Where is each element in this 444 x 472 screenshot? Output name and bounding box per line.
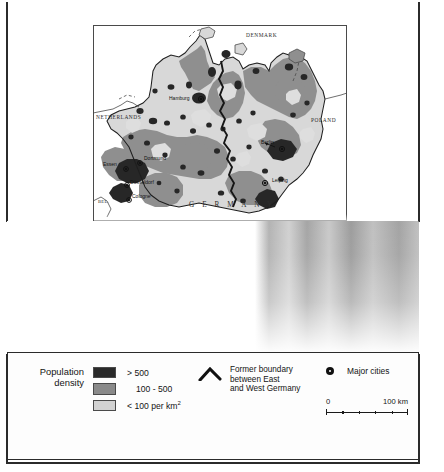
- legend-cities-label: Major cities: [347, 366, 389, 376]
- page-edge-bottom: [6, 462, 420, 464]
- scale-tick-20: [342, 411, 343, 414]
- scale-label-min: 0: [326, 397, 330, 406]
- scale-label-max: 100 km: [383, 397, 408, 406]
- scale-tick-80: [392, 411, 393, 414]
- density-class-list: > 500 100 - 500 < 100 per km2: [93, 365, 181, 415]
- scale-bar-line: [326, 412, 408, 413]
- boundary-text-line3: and West Germany: [230, 384, 300, 394]
- legend-item-major-cities: Major cities: [326, 366, 389, 376]
- swatch-low-density: [93, 400, 116, 412]
- density-label-low-text: < 100 per km: [127, 401, 177, 411]
- legend-title-line1: Population: [22, 366, 84, 377]
- scale-tick-60: [375, 411, 376, 414]
- density-class-low: < 100 per km2: [93, 398, 181, 413]
- density-label-medium: 100 - 500: [136, 384, 172, 394]
- boundary-text-line2: between East: [230, 375, 300, 385]
- density-label-high: > 500: [127, 368, 149, 378]
- city-markers: [93, 25, 347, 221]
- density-label-low-exponent: 2: [177, 400, 180, 406]
- scale-tick-40: [359, 411, 360, 414]
- swatch-medium-density: [93, 383, 116, 395]
- boundary-text-line1: Former boundary: [230, 365, 300, 375]
- density-label-low: < 100 per km2: [127, 400, 181, 411]
- legend-item-former-boundary: Former boundary between East and West Ge…: [198, 365, 300, 394]
- scan-smear-artifact: [7, 221, 419, 352]
- page-edge-right-upper: [418, 2, 420, 222]
- city-dot-icon: [326, 367, 334, 375]
- density-class-medium: 100 - 500: [93, 382, 181, 397]
- scale-bar-rule: [326, 408, 408, 415]
- swatch-high-density: [93, 367, 116, 379]
- population-density-map: DENMARK NETHERLANDS POLAND BEL. G E R M …: [93, 25, 347, 221]
- map-legend: Population density > 500 100 - 500 < 100…: [7, 352, 419, 460]
- page-edge-left-upper: [6, 2, 8, 222]
- legend-title-line2: density: [22, 377, 84, 388]
- density-class-high: > 500: [93, 365, 181, 380]
- legend-title: Population density: [22, 366, 84, 389]
- scale-tick-0: [326, 409, 327, 415]
- map-scale-bar: 0 100 km: [326, 397, 408, 415]
- scale-tick-100: [407, 409, 408, 415]
- scale-bar-labels: 0 100 km: [326, 397, 408, 407]
- chevron-up-thick-icon: [198, 367, 222, 381]
- legend-boundary-text: Former boundary between East and West Ge…: [230, 365, 300, 394]
